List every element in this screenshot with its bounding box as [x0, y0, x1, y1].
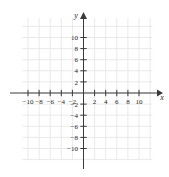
grid-lines — [22, 18, 152, 160]
coordinate-plane-figure: −10−8−6−4−2246810108642−2−4−6−8−10 x y — [0, 0, 169, 177]
y-axis-tick-label: −4 — [71, 112, 79, 120]
x-axis-tick-label: −4 — [58, 98, 66, 106]
x-axis-tick-label: 10 — [136, 98, 144, 106]
y-axis-tick-label: −6 — [71, 123, 79, 131]
y-axis-tick-label: 6 — [75, 56, 79, 64]
y-axis-tick-label: 10 — [71, 34, 79, 42]
y-axis-tick-label: −2 — [71, 101, 79, 109]
x-axis-tick-label: −6 — [46, 98, 54, 106]
x-axis-tick-label: −10 — [23, 98, 34, 106]
x-axis-tick-label: 2 — [93, 98, 97, 106]
x-axis-tick-label: −8 — [35, 98, 43, 106]
tick-labels: −10−8−6−4−2246810108642−2−4−6−8−10 — [23, 34, 143, 153]
y-axis-tick-label: −10 — [67, 145, 78, 153]
x-axis-tick-label: 6 — [115, 98, 119, 106]
y-axis-tick-label: 2 — [75, 79, 79, 87]
y-axis-tick-label: 8 — [75, 45, 79, 53]
y-axis-tick-label: 4 — [75, 67, 79, 75]
coordinate-plane-canvas: −10−8−6−4−2246810108642−2−4−6−8−10 x y — [0, 0, 169, 177]
x-axis-tick-label: 8 — [126, 98, 130, 106]
x-axis-label: x — [159, 93, 164, 102]
y-axis-arrow-icon — [80, 12, 87, 19]
y-axis-label: y — [73, 11, 78, 20]
axis-lines — [10, 12, 163, 169]
y-axis-tick-label: −8 — [71, 134, 79, 142]
x-axis-tick-label: 4 — [104, 98, 108, 106]
